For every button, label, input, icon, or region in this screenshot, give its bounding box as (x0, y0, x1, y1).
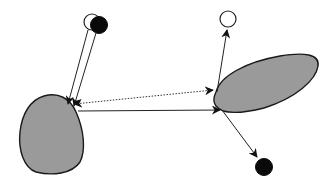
filled-node-bottom-right (256, 159, 273, 176)
filled-node-top-left (91, 17, 108, 34)
open-node-top-right (220, 11, 236, 27)
edge-dotted-blob-left-to-blob-right (74, 90, 213, 104)
diagram-svg (0, 0, 335, 189)
edge-solid-blob-left-to-blob-right (78, 110, 220, 111)
diagram-canvas (0, 0, 335, 189)
blob-left (20, 95, 84, 174)
edge-blob-right-to-filled-node (222, 110, 257, 157)
blob-right (214, 54, 318, 112)
